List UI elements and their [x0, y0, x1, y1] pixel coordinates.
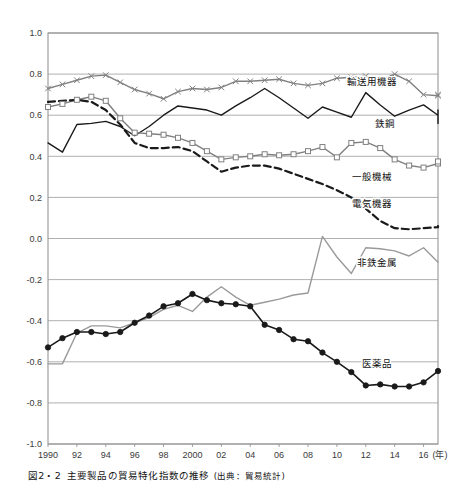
data-point-marker	[161, 304, 166, 309]
data-point-marker	[45, 345, 50, 350]
data-point-marker	[60, 101, 65, 106]
x-tick-label: 06	[274, 450, 284, 460]
data-point-marker	[406, 384, 411, 389]
data-point-marker	[320, 350, 325, 355]
x-axis-unit-label: (年)	[433, 449, 448, 460]
data-point-marker	[74, 329, 79, 334]
data-point-marker	[219, 157, 224, 162]
data-point-marker	[349, 140, 354, 145]
data-point-marker	[306, 149, 311, 154]
data-point-marker	[262, 322, 267, 327]
figure-container: 1.00.80.60.40.20.0-0.2-0.4-0.6-0.8-1.0 1…	[0, 0, 461, 500]
series-label-0: 輸送用機器	[347, 76, 397, 87]
y-tick-label: -0.8	[26, 398, 42, 408]
y-tick-label: -0.6	[26, 357, 42, 367]
data-point-marker	[60, 335, 65, 340]
data-point-marker	[291, 152, 296, 157]
data-point-marker	[435, 368, 440, 373]
y-axis-tick-labels: 1.00.80.60.40.20.0-0.2-0.4-0.6-0.8-1.0	[26, 28, 42, 449]
x-tick-label: 92	[72, 450, 82, 460]
data-point-marker	[118, 116, 123, 121]
data-point-marker	[291, 336, 296, 341]
x-tick-label: 02	[216, 450, 226, 460]
caption-number: 図2・2	[28, 470, 61, 481]
data-point-marker	[103, 98, 108, 103]
data-point-marker	[334, 359, 339, 364]
y-tick-label: 0.6	[29, 110, 42, 120]
data-point-marker	[436, 159, 441, 164]
data-point-marker	[320, 145, 325, 150]
data-point-marker	[89, 94, 94, 99]
data-point-marker	[421, 165, 426, 170]
series-label-3: 電気機器	[352, 198, 392, 209]
data-point-marker	[262, 152, 267, 157]
y-tick-label: 1.0	[29, 28, 42, 38]
y-tick-label: -0.4	[26, 316, 42, 326]
x-axis-tick-labels: 19909294969820000204060810121416(年)	[38, 444, 448, 460]
x-tick-label: 14	[390, 450, 400, 460]
data-point-marker	[190, 140, 195, 145]
x-tick-label: 96	[130, 450, 140, 460]
caption-source: (出典：貿易統計)	[214, 471, 285, 481]
data-point-marker	[363, 383, 368, 388]
data-point-marker	[407, 163, 412, 168]
y-tick-label: 0.2	[29, 193, 42, 203]
data-point-marker	[175, 301, 180, 306]
data-point-marker	[378, 146, 383, 151]
data-point-marker	[147, 131, 152, 136]
figure-caption: 図2・2主要製品の貿易特化指数の推移(出典：貿易統計)	[28, 468, 285, 482]
data-point-marker	[378, 382, 383, 387]
data-point-marker	[89, 329, 94, 334]
y-tick-label: 0.8	[29, 69, 42, 79]
data-point-marker	[421, 380, 426, 385]
data-point-marker	[219, 301, 224, 306]
data-point-marker	[103, 331, 108, 336]
data-point-marker	[46, 104, 51, 109]
data-point-marker	[204, 149, 209, 154]
data-point-marker	[146, 313, 151, 318]
series-label-5: 医薬品	[362, 358, 392, 369]
data-point-marker	[132, 320, 137, 325]
data-point-marker	[233, 302, 238, 307]
data-point-marker	[132, 130, 137, 135]
data-point-marker	[349, 369, 354, 374]
data-point-marker	[334, 155, 339, 160]
y-tick-label: -0.2	[26, 275, 42, 285]
data-point-marker	[248, 154, 253, 159]
data-point-marker	[161, 132, 166, 137]
x-tick-label: 1990	[38, 450, 58, 460]
data-point-marker	[248, 304, 253, 309]
y-tick-label: -1.0	[26, 439, 42, 449]
trade-specialization-index-chart: 1.00.80.60.40.20.0-0.2-0.4-0.6-0.8-1.0 1…	[0, 0, 461, 460]
x-tick-label: 12	[361, 450, 371, 460]
x-tick-label: 2000	[182, 450, 202, 460]
data-point-marker	[233, 155, 238, 160]
data-point-marker	[118, 329, 123, 334]
series-label-4: 非鉄金属	[357, 257, 397, 268]
data-point-marker	[276, 327, 281, 332]
caption-title: 主要製品の貿易特化指数の推移	[67, 470, 210, 481]
data-point-marker	[74, 97, 79, 102]
x-tick-label: 16	[419, 450, 429, 460]
series-label-1: 鉄鋼	[375, 118, 395, 129]
data-point-marker	[392, 384, 397, 389]
y-tick-label: 0.0	[29, 234, 42, 244]
data-point-marker	[363, 139, 368, 144]
data-point-marker	[204, 297, 209, 302]
x-tick-label: 04	[245, 450, 255, 460]
data-point-marker	[176, 135, 181, 140]
data-point-marker	[277, 153, 282, 158]
y-tick-label: 0.4	[29, 152, 42, 162]
x-tick-label: 10	[332, 450, 342, 460]
data-point-marker	[305, 339, 310, 344]
x-tick-label: 94	[101, 450, 111, 460]
x-tick-label: 98	[159, 450, 169, 460]
data-point-marker	[190, 291, 195, 296]
series-label-2: 一般機械	[352, 171, 392, 182]
data-point-marker	[392, 157, 397, 162]
x-tick-label: 08	[303, 450, 313, 460]
